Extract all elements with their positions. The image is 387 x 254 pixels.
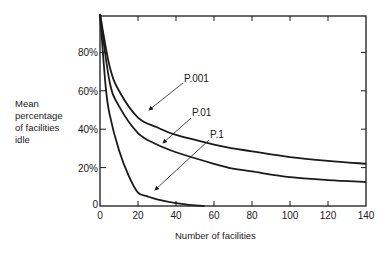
y-axis-label-line: idle xyxy=(15,134,63,146)
y-axis-label: Mean percentage of facilities idle xyxy=(15,98,63,146)
x-tick-label: 100 xyxy=(282,210,299,221)
plot-border xyxy=(100,16,366,206)
plot-frame xyxy=(100,16,366,206)
x-axis-label-text: Number of facilities xyxy=(175,230,256,241)
y-tick-label: 0 xyxy=(92,199,98,210)
x-tick-label: 140 xyxy=(358,210,375,221)
y-axis-label-line: Mean xyxy=(15,98,63,110)
x-tick-label: 120 xyxy=(320,210,337,221)
axis-ticks: 020406080100120140020%40%60%80% xyxy=(78,16,375,221)
y-tick-label: 20% xyxy=(78,163,98,174)
y-tick-label: 40% xyxy=(78,124,98,135)
series-annotations: P.001P.01P.1 xyxy=(149,73,224,190)
curve-Pp001 xyxy=(100,14,366,164)
x-tick-label: 80 xyxy=(246,210,258,221)
y-tick-label: 60% xyxy=(78,86,98,97)
annotation-arrow xyxy=(149,83,183,110)
x-tick-label: 20 xyxy=(132,210,144,221)
y-axis-label-line: percentage xyxy=(15,110,63,122)
annotation-arrow xyxy=(163,118,191,143)
curves xyxy=(100,14,366,206)
x-tick-label: 40 xyxy=(170,210,182,221)
y-tick-label: 80% xyxy=(78,47,98,58)
x-tick-label: 0 xyxy=(97,210,103,221)
curve-Pp01 xyxy=(100,14,366,182)
series-label: P.1 xyxy=(210,129,224,140)
series-label: P.001 xyxy=(184,73,209,84)
curve-Pp1 xyxy=(100,14,205,206)
series-label: P.01 xyxy=(192,107,212,118)
y-axis-label-line: of facilities xyxy=(15,122,63,134)
x-tick-label: 60 xyxy=(208,210,220,221)
